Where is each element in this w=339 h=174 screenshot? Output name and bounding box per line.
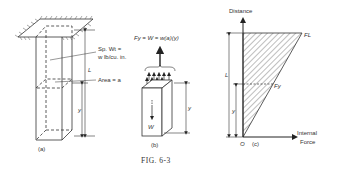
y-axis-label: Distance — [229, 8, 253, 14]
area-label: Area = a — [98, 77, 122, 83]
top-force-label: FL — [304, 32, 311, 38]
x-axis-label-line2: Force — [300, 139, 316, 145]
height-y-label-c: y — [231, 108, 236, 114]
length-L-label-c: L — [225, 72, 228, 78]
x-axis-label-line1: Internal — [297, 130, 317, 136]
panel-a-label: (a) — [38, 146, 45, 152]
origin-label: O — [240, 141, 245, 147]
sp-wt-label: Sp. Wt = — [98, 46, 122, 52]
force-equation: Fy = W = w(a)(y) — [134, 35, 179, 41]
ceiling-support — [15, 16, 93, 40]
panel-c: Distance L y FL Fy O (c) Internal Force — [225, 8, 317, 147]
panel-b-label: (b) — [151, 142, 158, 148]
dimension-L-c — [226, 33, 243, 137]
figure-caption: FIG. 6-3 — [141, 156, 171, 165]
length-L-label: L — [88, 67, 91, 73]
brace — [145, 65, 175, 71]
panel-c-label: (c) — [252, 141, 259, 147]
sp-wt-unit-label: w lb/cu. in. — [97, 54, 127, 60]
mid-force-label: Fy — [274, 83, 282, 89]
free-body-block — [142, 80, 172, 136]
bar-prism — [36, 26, 72, 140]
figure-canvas: Sp. Wt = w lb/cu. in. L Area = a y (a) F… — [0, 0, 339, 174]
force-distribution-triangle — [243, 33, 302, 137]
panel-a: Sp. Wt = w lb/cu. in. L Area = a y (a) — [15, 16, 127, 152]
height-y-label: y — [77, 107, 82, 113]
height-y-label-b: y — [187, 105, 192, 111]
panel-b: Fy = W = w(a)(y) W — [134, 35, 192, 148]
